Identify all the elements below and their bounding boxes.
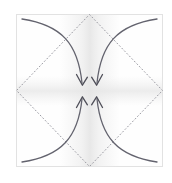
origami-figure: ) — [0, 0, 172, 183]
horizontal-shading — [17, 76, 163, 106]
fold-diagram-canvas — [0, 0, 172, 183]
